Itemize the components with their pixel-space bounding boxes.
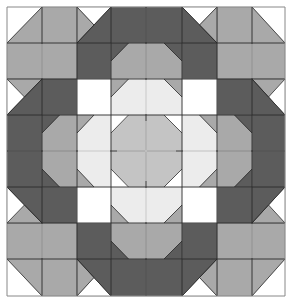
- side-band: [7, 151, 42, 187]
- center-band: [146, 259, 182, 296]
- square-patch: [217, 259, 252, 296]
- square-patch: [77, 223, 111, 259]
- square-patch: [217, 79, 252, 115]
- square-patch: [42, 187, 77, 223]
- band-patch: [217, 43, 285, 79]
- center-band: [111, 7, 146, 43]
- side-band: [7, 115, 42, 151]
- quilt-block-pattern: [0, 0, 290, 301]
- side-band: [252, 151, 285, 187]
- square-patch: [77, 187, 111, 223]
- square-patch: [182, 223, 217, 259]
- square-patch: [42, 7, 77, 43]
- center-band: [111, 259, 146, 296]
- square-patch: [42, 79, 77, 115]
- square-patch: [182, 79, 217, 115]
- band-patch: [217, 223, 285, 259]
- square-patch: [77, 79, 111, 115]
- square-patch: [182, 187, 217, 223]
- square-patch: [42, 259, 77, 296]
- center-band: [146, 7, 182, 43]
- square-patch: [182, 43, 217, 79]
- side-band: [252, 115, 285, 151]
- square-patch: [77, 43, 111, 79]
- square-patch: [217, 187, 252, 223]
- square-patch: [217, 7, 252, 43]
